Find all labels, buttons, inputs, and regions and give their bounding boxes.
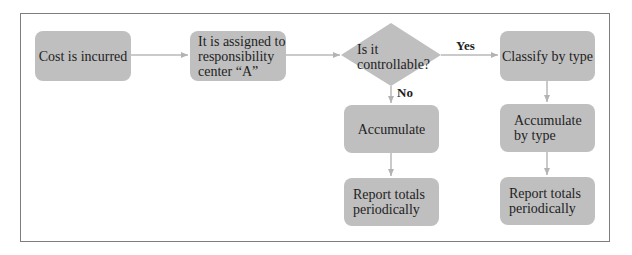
node-assigned-to-center: It is assigned to responsibility center … [190, 31, 286, 81]
node-classify-by-type: Classify by type [500, 31, 595, 81]
node-report-right-label: Report totals periodically [509, 186, 581, 216]
node-report-totals-right: Report totals periodically [500, 177, 595, 225]
node-report-left-label: Report totals periodically [353, 187, 425, 217]
node-accumulate-by-type-label: Accumulate by type [514, 113, 582, 143]
edge-label-yes: Yes [456, 38, 475, 54]
node-accumulate: Accumulate [344, 105, 439, 153]
node-cost-incurred-label: Cost is incurred [39, 49, 128, 64]
node-accumulate-label: Accumulate [358, 122, 426, 137]
node-assigned-label: It is assigned to responsibility center … [198, 34, 286, 79]
edge-label-no: No [397, 85, 413, 101]
node-report-totals-left: Report totals periodically [344, 178, 439, 226]
node-cost-incurred: Cost is incurred [35, 31, 131, 81]
node-accumulate-by-type: Accumulate by type [500, 104, 595, 152]
node-classify-label: Classify by type [502, 49, 593, 64]
decision-label: Is it controllable? [357, 42, 430, 72]
